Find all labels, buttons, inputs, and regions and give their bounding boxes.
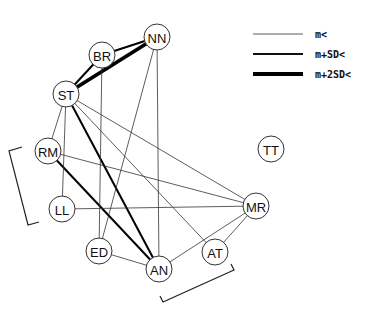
legend-label-thin: m< [315, 29, 327, 40]
network-diagram: NNBRSTRMLLEDANATMRTT m< m+SD< m+2SD< [0, 0, 374, 313]
node-tt: TT [258, 136, 284, 162]
node-label: MR [246, 200, 266, 215]
edge-st-at [66, 94, 215, 252]
node-label: NN [148, 31, 167, 46]
nodes-layer: NNBRSTRMLLEDANATMRTT [35, 24, 284, 282]
node-label: BR [93, 49, 111, 64]
node-br: BR [89, 42, 115, 68]
node-label: LL [55, 203, 69, 218]
edge-ll-mr [62, 206, 256, 209]
edge-nn-an [157, 37, 159, 269]
legend-label-medium: m+SD< [315, 49, 345, 60]
node-at: AT [202, 239, 228, 265]
edge-st-ll [62, 94, 66, 209]
edge-rm-mr [48, 151, 256, 206]
node-label: ED [90, 245, 108, 260]
node-label: AT [207, 246, 223, 261]
legend-label-thick: m+2SD< [315, 69, 351, 80]
left-bracket-rm-ll [9, 147, 39, 225]
legend: m< m+SD< m+2SD< [253, 29, 351, 80]
node-label: AN [150, 263, 168, 278]
node-mr: MR [243, 193, 269, 219]
node-st: ST [53, 81, 79, 107]
edge-st-an [66, 94, 159, 269]
node-nn: NN [144, 24, 170, 50]
node-ll: LL [49, 196, 75, 222]
node-label: ST [58, 88, 75, 103]
node-label: TT [263, 143, 279, 158]
node-label: RM [38, 145, 58, 160]
node-ed: ED [86, 238, 112, 264]
edge-st-mr [66, 94, 256, 206]
edges-layer [48, 37, 256, 269]
node-an: AN [146, 256, 172, 282]
node-rm: RM [35, 138, 61, 164]
edge-br-ed [99, 55, 102, 251]
